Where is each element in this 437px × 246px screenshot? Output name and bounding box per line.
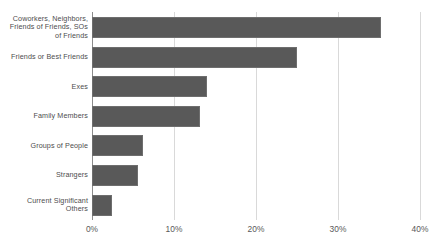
category-label: Current SignificantOthers xyxy=(2,197,88,214)
category-label-line: Exes xyxy=(2,83,88,91)
category-label: Exes xyxy=(2,83,88,91)
bar-item xyxy=(92,76,207,97)
bar-item xyxy=(92,17,381,38)
bar xyxy=(92,17,381,38)
category-label: Strangers xyxy=(2,171,88,179)
x-tick-label: 0% xyxy=(86,224,98,234)
x-tick-label: 10% xyxy=(166,224,183,234)
category-label: Friends or Best Friends xyxy=(2,53,88,61)
bar xyxy=(92,106,200,127)
bar-item xyxy=(92,195,112,216)
category-label-line: Others xyxy=(2,205,88,213)
bar xyxy=(92,165,138,186)
x-tick-label: 30% xyxy=(330,224,347,234)
gridline xyxy=(420,12,421,220)
bar-item xyxy=(92,106,200,127)
gridline xyxy=(338,12,339,220)
bar-item xyxy=(92,165,138,186)
bar-item xyxy=(92,47,297,68)
value-axis-labels: 0%10%20%30%40% xyxy=(92,224,420,238)
category-axis-labels: Coworkers, Neighbors,Friends of Friends,… xyxy=(0,12,88,220)
category-label: Coworkers, Neighbors,Friends of Friends,… xyxy=(2,15,88,40)
bar xyxy=(92,76,207,97)
category-label-line: Friends or Best Friends xyxy=(2,53,88,61)
bar xyxy=(92,47,297,68)
category-label: Groups of People xyxy=(2,142,88,150)
x-tick-label: 20% xyxy=(248,224,265,234)
horizontal-bar-chart: Coworkers, Neighbors,Friends of Friends,… xyxy=(0,0,437,246)
bar xyxy=(92,135,143,156)
category-label-line: Strangers xyxy=(2,171,88,179)
bar xyxy=(92,195,112,216)
category-label-line: of Friends xyxy=(2,32,88,40)
x-tick-label: 40% xyxy=(412,224,429,234)
gridline xyxy=(256,12,257,220)
bar-item xyxy=(92,135,143,156)
plot-area xyxy=(92,12,420,220)
category-label-line: Family Members xyxy=(2,112,88,120)
category-label: Family Members xyxy=(2,112,88,120)
category-label-line: Groups of People xyxy=(2,142,88,150)
